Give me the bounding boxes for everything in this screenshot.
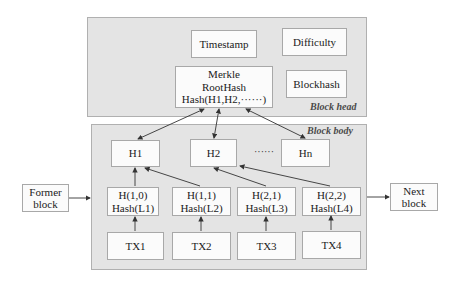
connector-arrows <box>0 0 460 284</box>
